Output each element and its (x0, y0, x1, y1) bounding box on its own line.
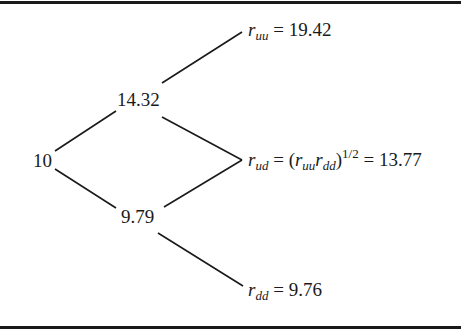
node-dd: rdd = 9.76 (248, 280, 322, 299)
node-uu-value: 19.42 (289, 19, 332, 40)
node-ud-subscript: ud (255, 158, 268, 173)
node-up-value: 14.32 (117, 89, 160, 110)
node-uu-equals: = (273, 19, 284, 40)
node-ud: rud = (ruurdd)1/2 = 13.77 (248, 150, 422, 169)
node-ud-sub1: uu (302, 158, 315, 173)
node-dd-equals: = (273, 279, 284, 300)
node-ud-equals: = (273, 149, 284, 170)
edge-up-ud (162, 117, 242, 160)
node-ud-value: 13.77 (379, 149, 422, 170)
node-ud-exponent: 1/2 (342, 146, 359, 161)
node-dd-subscript: dd (255, 288, 268, 303)
node-uu-subscript: uu (255, 28, 268, 43)
node-down: 9.79 (121, 207, 154, 226)
node-dd-value: 9.76 (289, 279, 322, 300)
node-down-value: 9.79 (121, 206, 154, 227)
node-uu: ruu = 19.42 (248, 20, 331, 39)
node-ud-equals2: = (363, 149, 374, 170)
node-up: 14.32 (117, 90, 160, 109)
edge-root-down (55, 169, 116, 208)
node-root-value: 10 (33, 150, 52, 171)
binomial-tree-figure: 10 14.32 9.79 ruu = 19.42 rud = (ruurdd)… (0, 0, 461, 332)
edge-up-uu (162, 32, 242, 83)
node-ud-sym2: r (315, 149, 322, 170)
edge-root-up (55, 111, 116, 151)
node-root: 10 (33, 151, 52, 170)
edge-down-ud (164, 160, 242, 207)
node-ud-sub2: dd (323, 158, 336, 173)
edge-down-dd (158, 233, 243, 286)
